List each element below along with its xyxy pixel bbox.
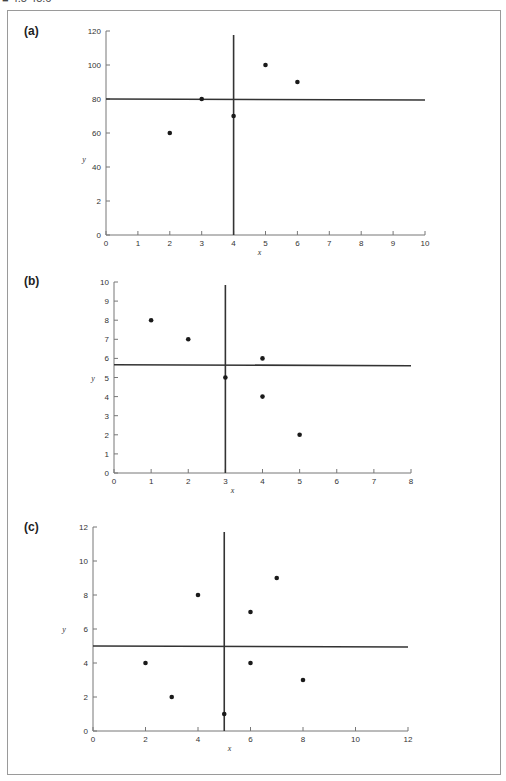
x-tick-label: 3 (199, 239, 204, 248)
x-tick-label: 5 (297, 477, 302, 486)
data-point (231, 114, 236, 119)
x-tick-label: 10 (421, 239, 430, 248)
data-point (199, 97, 204, 102)
x-tick-label: 9 (391, 239, 396, 248)
y-tick-label: 12 (79, 523, 88, 532)
y-tick-label: 6 (105, 354, 110, 363)
x-axis-label: x (227, 744, 232, 753)
data-point (263, 63, 268, 68)
x-tick-label: 2 (143, 735, 148, 744)
y-axis-label: y (61, 625, 66, 634)
y-tick-label: 5 (105, 374, 110, 383)
x-tick-label: 8 (409, 477, 414, 486)
x-axis-label: x (257, 248, 262, 257)
data-point (196, 593, 201, 598)
scatter-plots: 01234567891002406080100120xy012345678012… (0, 0, 506, 781)
x-axis-label: x (230, 486, 235, 495)
data-point (222, 712, 227, 717)
data-point (297, 433, 302, 438)
x-tick-label: 2 (168, 239, 173, 248)
data-point (248, 610, 253, 615)
y-tick-label: 10 (100, 278, 109, 287)
chart-panel-1: 01234567891002406080100120xy (81, 27, 430, 257)
data-point (223, 375, 228, 380)
y-tick-label: 9 (105, 297, 110, 306)
x-tick-label: 1 (136, 239, 141, 248)
data-point (301, 678, 306, 683)
y-axis-label: y (81, 155, 86, 164)
x-tick-label: 1 (149, 477, 154, 486)
data-point (143, 661, 148, 666)
mean-y-line (93, 646, 408, 647)
x-tick-label: 8 (301, 735, 306, 744)
y-tick-label: 100 (88, 61, 102, 70)
x-tick-label: 4 (260, 477, 265, 486)
x-tick-label: 6 (335, 477, 340, 486)
y-axis-label: y (90, 374, 95, 383)
y-tick-label: 0 (97, 231, 102, 240)
x-tick-label: 4 (231, 239, 236, 248)
x-tick-label: 0 (91, 735, 96, 744)
chart-panel-2: 012345678012345678910xy (90, 278, 414, 495)
x-tick-label: 8 (359, 239, 364, 248)
x-tick-label: 0 (112, 477, 117, 486)
y-tick-label: 40 (92, 163, 101, 172)
mean-y-line (106, 99, 425, 100)
data-point (169, 695, 174, 700)
y-tick-label: 0 (105, 469, 110, 478)
y-tick-label: 8 (84, 591, 89, 600)
y-tick-label: 0 (84, 727, 89, 736)
y-tick-label: 7 (105, 335, 110, 344)
y-tick-label: 1 (105, 450, 110, 459)
x-tick-label: 7 (372, 477, 377, 486)
data-point (260, 356, 265, 361)
y-tick-label: 4 (105, 393, 110, 402)
y-tick-label: 6 (84, 625, 89, 634)
x-tick-label: 2 (186, 477, 191, 486)
data-point (274, 576, 279, 581)
x-tick-label: 6 (248, 735, 253, 744)
data-point (149, 318, 154, 323)
x-tick-label: 0 (104, 239, 109, 248)
y-tick-label: 10 (79, 557, 88, 566)
data-point (295, 80, 300, 85)
y-tick-label: 2 (105, 431, 110, 440)
data-point (168, 131, 173, 136)
x-tick-label: 10 (351, 735, 360, 744)
chart-panel-3: 024681012024681012xy (61, 523, 413, 753)
y-tick-label: 60 (92, 129, 101, 138)
y-tick-label: 80 (92, 95, 101, 104)
data-point (260, 394, 265, 399)
x-tick-label: 12 (404, 735, 413, 744)
mean-y-line (114, 365, 411, 366)
y-tick-label: 8 (105, 316, 110, 325)
data-point (248, 661, 253, 666)
y-tick-label: 2 (97, 197, 102, 206)
y-tick-label: 2 (84, 693, 89, 702)
x-tick-label: 3 (223, 477, 228, 486)
x-tick-label: 6 (295, 239, 300, 248)
y-tick-label: 4 (84, 659, 89, 668)
y-tick-label: 120 (88, 27, 102, 36)
y-tick-label: 3 (105, 412, 110, 421)
x-tick-label: 7 (327, 239, 332, 248)
data-point (186, 337, 191, 342)
x-tick-label: 4 (196, 735, 201, 744)
x-tick-label: 5 (263, 239, 268, 248)
